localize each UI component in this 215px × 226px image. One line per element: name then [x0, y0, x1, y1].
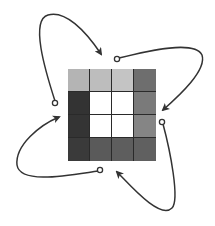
- curved-arrow-icon: [17, 117, 98, 177]
- arrow-bottom-left: [17, 117, 103, 177]
- arrow-origin-circle-icon: [159, 119, 164, 124]
- arrow-bottom-right: [117, 119, 175, 210]
- arrow-origin-circle-icon: [114, 56, 119, 61]
- arrow-origin-circle-icon: [97, 167, 102, 172]
- arrow-origin-circle-icon: [52, 100, 57, 105]
- curved-arrow-icon: [117, 124, 175, 210]
- arrow-top-right: [114, 47, 202, 110]
- curved-arrow-icon: [119, 47, 203, 110]
- rotation-arrows: [0, 0, 215, 226]
- curved-arrow-icon: [40, 14, 101, 101]
- rotation-diagram: [0, 0, 215, 226]
- arrow-top-left: [40, 14, 101, 105]
